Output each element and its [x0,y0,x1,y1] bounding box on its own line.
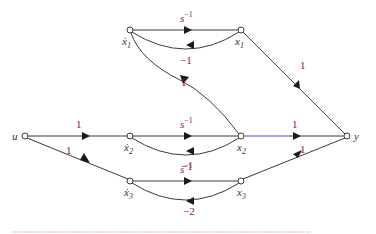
label-x3dot: ẋ3 [123,186,133,201]
arrow-icon [184,26,192,34]
edge-u-to-x3dot [27,138,128,179]
signal-flow-graph: u y ẋ1 x1 ẋ2 x2 ẋ3 x3 1 1 s−1 −1 s−1 −1 … [0,0,376,234]
gain-x3-y: 1 [300,143,306,155]
arrow-icon [186,41,194,49]
edge-x3-to-x3dot [132,183,239,200]
arrow-icon [186,147,194,155]
label-u: u [12,130,18,142]
node-x2dot [127,133,133,139]
label-x2: x2 [236,141,246,156]
arrow-icon [293,132,301,140]
label-y: y [353,130,359,142]
node-x3 [238,178,244,184]
node-x1 [238,27,244,33]
node-y [344,133,350,139]
node-u [22,133,28,139]
node-x2 [238,133,244,139]
node-x1dot [127,27,133,33]
gain-x1-x1dot: −1 [180,54,192,66]
arrow-icon [80,153,90,163]
gain-x2dot-x2: s−1 [180,116,193,130]
node-x3dot [127,178,133,184]
arrow-icon [82,132,90,140]
label-x2dot: ẋ2 [123,141,133,156]
arrow-icon [184,177,192,185]
arrow-icon [186,197,194,205]
gain-x1-y: 1 [300,59,306,71]
gain-x3-x3dot: −2 [183,205,195,217]
gain-x2-y: 1 [292,118,298,130]
gain-u-x3dot: 1 [66,144,72,156]
edge-x2-to-x2dot [132,138,239,155]
arrow-icon [293,80,300,89]
gain-x3dot-x3: s−1 [180,161,193,175]
gain-x2-x1dot: 1 [181,76,187,88]
edge-x1-to-x1dot [132,32,239,49]
label-x3: x3 [236,186,246,201]
label-x1: x1 [234,35,244,50]
label-x1dot: ẋ1 [121,35,131,50]
arrow-icon [184,132,192,140]
gain-u-x2dot: 1 [76,118,82,130]
gain-x1dot-x1: s−1 [180,10,193,24]
edge-x3-to-y [243,138,345,179]
